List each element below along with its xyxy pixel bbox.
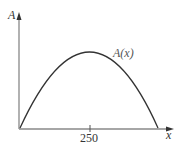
- curve-label: A(x): [113, 46, 134, 61]
- curve-A-of-x: [20, 52, 158, 128]
- x-axis-label: x: [166, 128, 171, 143]
- tick-label-250: 250: [80, 131, 98, 146]
- chart: A x A(x) 250: [0, 0, 181, 158]
- y-axis-label: A: [8, 8, 15, 23]
- y-axis-arrow-icon: [17, 12, 22, 20]
